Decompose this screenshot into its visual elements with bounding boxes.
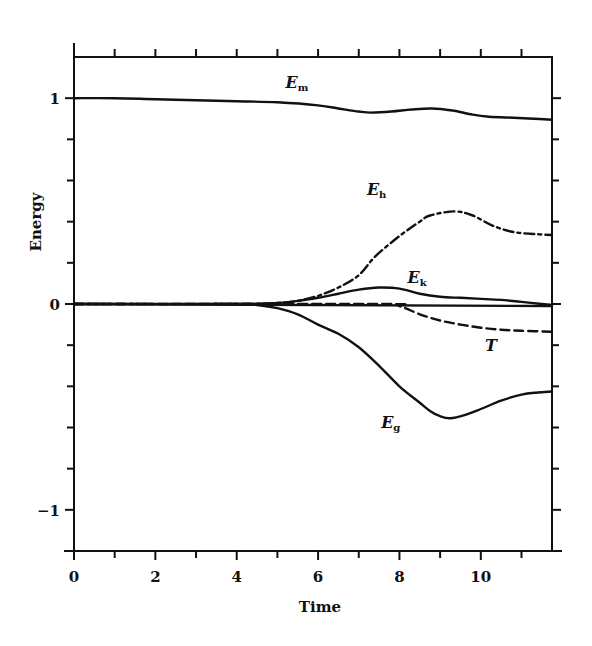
series-label-e-g: Eg <box>380 413 400 433</box>
x-tick-label: 0 <box>69 568 79 586</box>
x-tick-label: 8 <box>394 568 404 586</box>
series-label-t: T <box>485 336 498 355</box>
x-tick-label: 10 <box>470 568 491 586</box>
y-tick-label: 0 <box>50 296 60 314</box>
series-label-e-m: Em <box>285 73 309 93</box>
x-axis-title: Time <box>299 598 341 616</box>
series-label-e-k: Ek <box>407 268 428 288</box>
plot-curves <box>74 98 552 418</box>
curve-t <box>74 304 552 332</box>
curve-e-g <box>74 304 552 418</box>
y-tick-label: −1 <box>37 502 60 520</box>
x-tick-label: 4 <box>232 568 242 586</box>
curve-e-h <box>74 211 552 304</box>
x-tick-label: 2 <box>150 568 160 586</box>
series-label-e-h: Eh <box>366 180 387 200</box>
y-tick-label: 1 <box>50 90 60 108</box>
axis-ticks <box>64 43 562 560</box>
x-tick-label: 6 <box>313 568 323 586</box>
axis-tick-labels: 0246810−101 <box>37 90 491 586</box>
y-axis-title: Energy <box>27 191 45 251</box>
energy-time-chart: 0246810−101 EmEhEkTEg Time Energy <box>0 0 592 646</box>
curve-e-m <box>74 98 552 120</box>
